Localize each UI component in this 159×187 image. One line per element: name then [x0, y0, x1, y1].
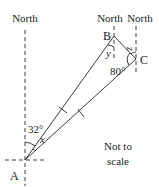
- angle-label-z: z: [125, 46, 136, 51]
- north-label-c: North: [127, 12, 153, 24]
- angle-label-y: y: [105, 47, 111, 59]
- angle-label-80: 80°: [110, 65, 125, 77]
- angle-label-x: x: [39, 133, 45, 145]
- point-label-c: C: [140, 53, 148, 67]
- arc-c-z: [131, 52, 136, 54]
- arc-a-north: [25, 142, 35, 146]
- north-label-a: North: [12, 12, 38, 24]
- north-label-b: North: [97, 12, 123, 24]
- tick-ac: [78, 109, 84, 117]
- arc-c-80: [127, 53, 130, 65]
- note-scale: scale: [107, 155, 129, 167]
- point-label-b: B: [103, 29, 111, 43]
- bearings-diagram: North North North A B C 32° x y 80° z No…: [0, 0, 159, 187]
- point-label-a: A: [10, 169, 19, 183]
- side-ab: [25, 36, 114, 160]
- note-not-to: Not to: [104, 140, 132, 152]
